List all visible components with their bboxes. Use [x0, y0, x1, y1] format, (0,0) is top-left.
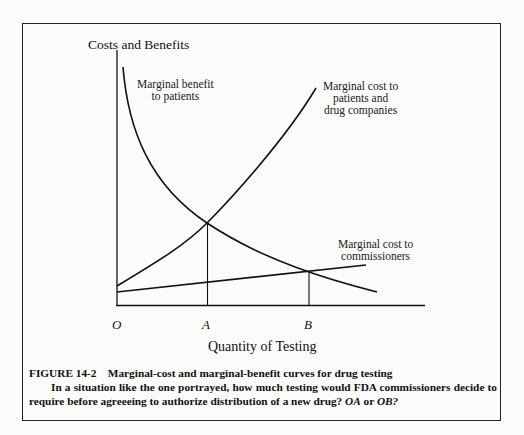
figure-caption: FIGURE 14-2 Marginal-cost and marginal-b…: [29, 366, 497, 408]
label-marginal-cost-commissioners: Marginal cost to commissioners: [338, 238, 413, 262]
y-axis-title: Costs and Benefits: [88, 37, 189, 53]
tick-origin: O: [112, 317, 121, 333]
caption-question: In a situation like the one portrayed, h…: [29, 380, 497, 408]
caption-title: FIGURE 14-2 Marginal-cost and marginal-b…: [29, 366, 497, 380]
label-marginal-benefit: Marginal benefit to patients: [137, 78, 214, 102]
tick-a: A: [202, 317, 210, 333]
x-axis-title: Quantity of Testing: [208, 339, 316, 355]
curve-marginal-cost-patients: [117, 88, 316, 286]
tick-b: B: [304, 317, 312, 333]
label-marginal-cost-patients: Marginal cost to patients and drug compa…: [323, 80, 398, 116]
